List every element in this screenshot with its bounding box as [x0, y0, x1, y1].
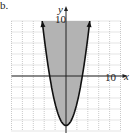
parabola-graph [0, 0, 135, 133]
x-axis-label: x [124, 71, 129, 82]
y-max-label: 10 [55, 14, 66, 25]
problem-label: b. [0, 0, 8, 11]
x-max-label: 10 [105, 72, 116, 83]
